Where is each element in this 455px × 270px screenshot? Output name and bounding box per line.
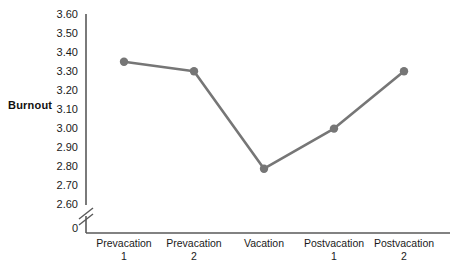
data-point-2	[260, 165, 268, 173]
y-tick-label-3-60: 3.60	[26, 8, 78, 20]
y-tick-label-3-30: 3.30	[26, 65, 78, 77]
x-tick-line2: 2	[352, 250, 455, 263]
x-tick-label-postvacation-2: Postvacation 2	[352, 237, 455, 263]
y-tick-label-3-20: 3.20	[26, 84, 78, 96]
data-point-0	[120, 58, 128, 66]
line-chart: Burnout 3.60 3.50 3.40 3.30 3.20 3.10 3.…	[0, 0, 455, 270]
y-tick-label-2-90: 2.90	[26, 141, 78, 153]
y-tick-label-3-10: 3.10	[26, 103, 78, 115]
data-point-4	[400, 67, 408, 75]
data-point-3	[330, 124, 338, 132]
y-tick-label-2-80: 2.80	[26, 160, 78, 172]
y-tick-label-3-40: 3.40	[26, 46, 78, 58]
y-tick-label-3-50: 3.50	[26, 27, 78, 39]
x-tick-line1: Postvacation	[374, 237, 434, 249]
y-tick-label-2-70: 2.70	[26, 179, 78, 191]
x-tick-line2: 2	[142, 250, 246, 263]
y-tick-label-zero: 0	[26, 222, 78, 234]
data-point-1	[190, 67, 198, 75]
y-tick-label-2-60: 2.60	[26, 198, 78, 210]
series-markers-burnout	[120, 58, 408, 173]
series-line-burnout	[124, 62, 404, 169]
x-tick-line1: Vacation	[244, 237, 284, 249]
y-tick-label-3-00: 3.00	[26, 122, 78, 134]
